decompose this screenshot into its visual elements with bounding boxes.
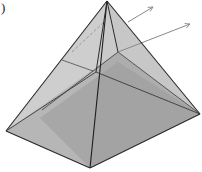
pyramid-diagram: [0, 0, 202, 172]
arrow-upper: [128, 7, 153, 22]
